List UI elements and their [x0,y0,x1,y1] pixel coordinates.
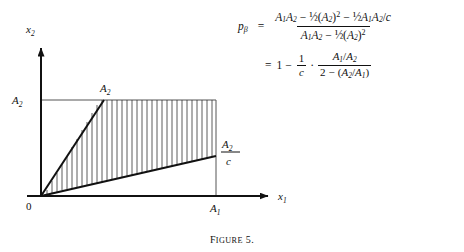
x-tick-label-a1: A1 [209,202,220,217]
multiply-dot: · [308,59,316,72]
equals-sign-2: = [260,59,277,72]
figure-caption: FIGURE 5. [0,234,464,245]
upper-boundary-line [41,100,104,196]
ratio-denominator: 2−(A2/A1) [318,65,371,81]
origin-label: 0 [26,200,32,212]
equals-sign-1: = [253,20,270,33]
equation-block: pβ = A1A2−½(A2)2−½A1A2/c A1A2−½(A2)2 = 1… [238,10,464,80]
right-fraction-a2-over-c: A2 c [221,138,240,167]
equation-line-1: pβ = A1A2−½(A2)2−½A1A2/c A1A2−½(A2)2 [238,10,464,43]
upper-point-label-a2: A2 [99,82,111,97]
fraction-ratio: A1/A2 2−(A2/A1) [318,50,371,80]
fraction-one-over-c: 1 c [297,52,307,78]
right-fraction-numerator: A2 [221,138,233,153]
minus-sign: − [282,59,295,72]
y-axis-label: x2 [25,23,35,38]
fraction-denominator: A1A2−½(A2)2 [297,26,370,43]
x-axis-label: x1 [277,190,287,205]
ratio-numerator: A1/A2 [331,50,359,65]
one-over-c-numerator: 1 [297,52,307,65]
figure-page: x2 x1 0 A2 A1 A2 A2 c pβ = A1A2−½(A2)2−½… [0,0,464,252]
hatched-region [47,100,212,194]
right-fraction-denominator: c [226,155,231,167]
caption-rest: IGURE [216,236,243,245]
caption-number: 5. [246,234,254,245]
fraction-numerator: A1A2−½(A2)2−½A1A2/c [271,10,395,26]
equation-lhs: pβ [238,20,253,34]
one-over-c-denominator: c [297,65,306,79]
y-tick-label-a2: A2 [11,94,23,109]
equation-line-2: = 1 − 1 c · A1/A2 2−(A2/A1) [238,50,464,80]
main-fraction: A1A2−½(A2)2−½A1A2/c A1A2−½(A2)2 [271,10,395,43]
